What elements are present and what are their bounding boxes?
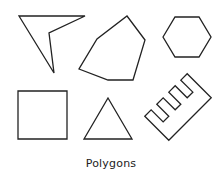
comb-group <box>145 74 211 140</box>
regular-hexagon <box>163 17 211 57</box>
irregular-hexagon <box>79 16 145 80</box>
figure-caption: Polygons <box>0 157 222 170</box>
square <box>18 91 67 139</box>
triangle <box>84 98 132 139</box>
concave-quadrilateral <box>19 16 85 73</box>
comb-polygon <box>145 74 211 140</box>
polygons-figure <box>0 0 222 177</box>
